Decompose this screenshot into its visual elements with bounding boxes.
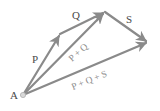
origin-point-icon [20, 92, 25, 97]
label-vector-p: P [32, 53, 38, 65]
vector-addition-diagram: A P Q S P + Q P + Q + S [0, 0, 160, 111]
label-vector-s: S [126, 13, 132, 25]
label-origin-a: A [10, 89, 18, 101]
vector-q [60, 13, 103, 34]
label-vector-p-plus-q: P + Q [67, 41, 90, 63]
label-vector-q: Q [72, 9, 80, 21]
